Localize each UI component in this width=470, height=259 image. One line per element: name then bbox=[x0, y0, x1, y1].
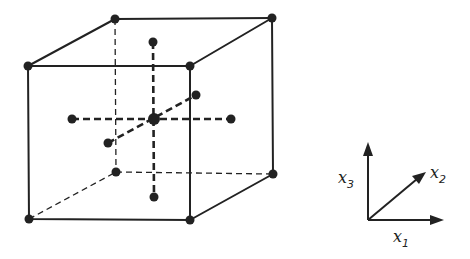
coordinate-axes: x3 x2 x1 bbox=[338, 142, 446, 250]
axis-x2-line bbox=[368, 179, 417, 220]
hidden-edge-back-bottom bbox=[116, 172, 273, 174]
atom-back-bottom-left bbox=[112, 168, 121, 177]
edge-back-right-vertical bbox=[272, 18, 273, 174]
atom-front-bottom-left bbox=[25, 215, 34, 224]
axis-label-x3: x3 bbox=[338, 168, 354, 191]
atom-neighbor-front bbox=[104, 139, 113, 148]
edge-bottom-right-depth bbox=[190, 174, 273, 220]
axis-label-x2: x2 bbox=[430, 163, 446, 186]
atom-center bbox=[148, 113, 160, 125]
arrow-right-icon bbox=[430, 215, 444, 225]
atom-front-top-left bbox=[24, 62, 33, 71]
axis-label-x1: x1 bbox=[393, 227, 409, 250]
hidden-edge-back-left-vertical bbox=[115, 19, 116, 172]
atom-neighbor-up bbox=[149, 38, 158, 47]
atom-back-top-right bbox=[268, 14, 277, 23]
atom-back-bottom-right bbox=[269, 170, 278, 179]
atom-back-top-left bbox=[111, 15, 120, 24]
atom-front-bottom-right bbox=[186, 216, 195, 225]
atom-neighbor-down bbox=[150, 193, 159, 202]
edge-top-left-depth bbox=[28, 19, 115, 66]
atom-neighbor-back bbox=[192, 91, 201, 100]
arrow-up-icon bbox=[363, 142, 373, 156]
atom-front-top-right bbox=[186, 62, 195, 71]
edge-top-right-depth bbox=[190, 18, 272, 66]
atom-neighbor-left bbox=[68, 115, 77, 124]
hidden-edge-bottom-left-depth bbox=[29, 172, 116, 219]
edge-top-back bbox=[115, 18, 272, 19]
bcc-unit-cell-diagram: x3 x2 x1 bbox=[0, 0, 470, 259]
atom-neighbor-right bbox=[227, 115, 236, 124]
